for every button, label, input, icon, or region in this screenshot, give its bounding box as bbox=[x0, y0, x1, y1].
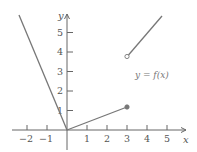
middle-branch bbox=[67, 107, 127, 130]
open-endpoint-circle bbox=[125, 54, 129, 58]
x-tick-label: 4 bbox=[144, 133, 150, 144]
closed-endpoint-dot bbox=[125, 105, 129, 109]
function-label: y = f(x) bbox=[134, 70, 169, 80]
x-tick-label: 5 bbox=[164, 133, 170, 144]
function-graph: −2 −1 1 2 3 4 5 x 1 2 3 4 5 y y = f(x) bbox=[0, 0, 197, 152]
x-tick-label: −1 bbox=[39, 133, 53, 144]
x-ticks bbox=[27, 125, 167, 130]
x-axis-label: x bbox=[183, 134, 189, 145]
y-ticks bbox=[67, 33, 73, 111]
x-tick-label: 1 bbox=[84, 133, 90, 144]
x-tick-label: 3 bbox=[124, 133, 130, 144]
y-tick-label: 2 bbox=[57, 85, 63, 96]
y-tick-labels: 1 2 3 4 5 bbox=[57, 27, 63, 116]
y-tick-label: 5 bbox=[57, 27, 63, 38]
y-tick-label: 4 bbox=[57, 46, 63, 57]
x-tick-label: −2 bbox=[19, 133, 33, 144]
right-branch bbox=[129, 16, 163, 55]
y-tick-label: 3 bbox=[57, 66, 63, 77]
y-axis-label: y bbox=[57, 10, 64, 21]
x-tick-label: 2 bbox=[104, 133, 110, 144]
x-tick-labels: −2 −1 1 2 3 4 5 bbox=[19, 133, 170, 144]
axes bbox=[12, 14, 186, 150]
